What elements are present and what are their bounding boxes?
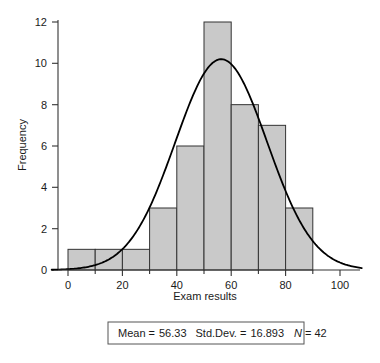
y-axis-title: Frequency: [16, 119, 28, 171]
x-axis-title: Exam results: [173, 290, 237, 302]
histogram-chart: Frequency 0 2 4 6 8 10 12 020406080100: [0, 0, 380, 363]
histogram-bar: [258, 125, 285, 270]
stats-n-label: N: [294, 327, 302, 339]
x-tick-label: 20: [116, 279, 128, 291]
stats-stddev-label: Std.Dev. =: [196, 327, 247, 339]
histogram-bar: [286, 208, 313, 270]
x-tick-label: 80: [279, 279, 291, 291]
y-tick-label-8: 8: [41, 99, 47, 111]
y-tick-label-10: 10: [35, 57, 47, 69]
y-tick-label-6: 6: [41, 140, 47, 152]
histogram-bars: [68, 22, 313, 270]
stats-box: Mean =56.33Std.Dev. =16.893N=42: [108, 322, 327, 344]
y-tick-label-2: 2: [41, 223, 47, 235]
stats-n-equals: =: [305, 327, 311, 339]
stats-line: Mean =56.33Std.Dev. =16.893N=42: [118, 327, 327, 339]
y-tick-label-4: 4: [41, 181, 47, 193]
y-tick-label-12: 12: [35, 16, 47, 28]
x-tick-label: 100: [331, 279, 349, 291]
stats-mean-value: 56.33: [159, 327, 187, 339]
stats-mean-label: Mean =: [118, 327, 155, 339]
stats-n-value: 42: [314, 327, 326, 339]
x-axis-ticks: 020406080100: [65, 270, 349, 291]
histogram-bar: [150, 208, 177, 270]
histogram-bar: [122, 249, 149, 270]
stats-stddev-value: 16.893: [250, 327, 284, 339]
y-tick-label-0: 0: [41, 264, 47, 276]
histogram-bar: [231, 105, 258, 270]
y-axis-ticks: 0 2 4 6 8 10 12: [35, 16, 58, 276]
x-tick-label: 0: [65, 279, 71, 291]
histogram-bar: [177, 146, 204, 270]
histogram-figure: Frequency 0 2 4 6 8 10 12 020406080100: [0, 0, 380, 363]
